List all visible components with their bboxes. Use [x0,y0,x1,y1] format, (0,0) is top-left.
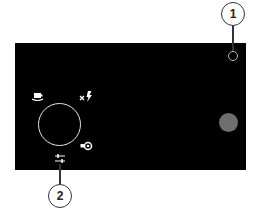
callout-2-leader [59,164,61,185]
callout-1-number: 1 [230,7,237,21]
callout-1-leader [232,25,234,51]
mode-dial[interactable] [38,103,81,146]
video-record-icon[interactable] [80,141,93,151]
sliders-icon[interactable] [54,153,66,164]
front-camera-ring-icon [228,51,238,61]
callout-1: 1 [221,2,245,26]
flash-off-icon[interactable] [79,90,93,103]
callout-2-number: 2 [57,189,64,203]
callout-2: 2 [48,184,72,208]
shutter-button[interactable] [219,113,238,132]
switch-camera-icon[interactable] [31,92,44,102]
figure: 1 2 [0,0,261,219]
